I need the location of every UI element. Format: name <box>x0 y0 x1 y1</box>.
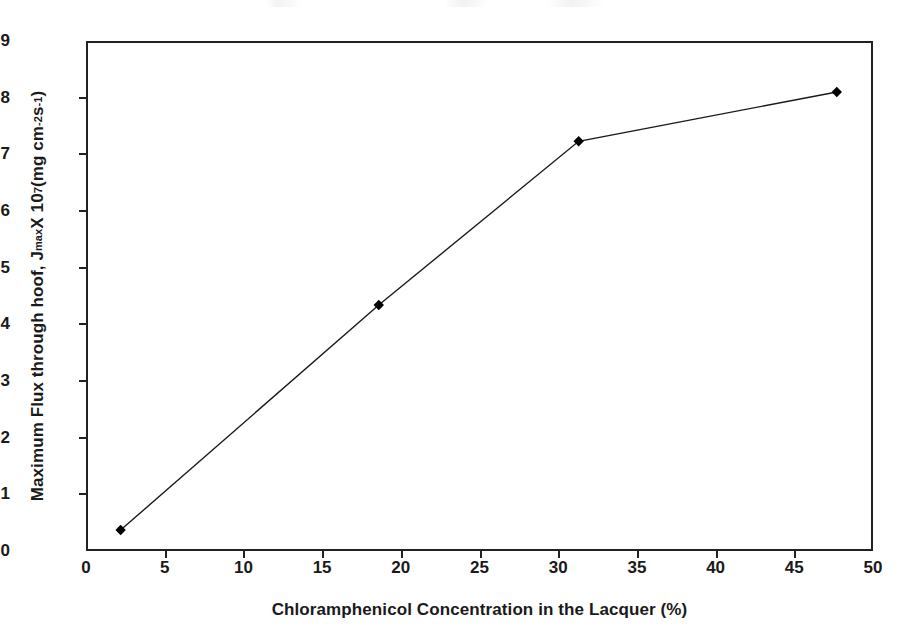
y-tick-mark <box>79 153 86 155</box>
y-tick-mark <box>79 323 86 325</box>
x-tick-mark <box>243 551 245 558</box>
y-tick-mark <box>79 493 86 495</box>
y-tick-label: 8 <box>0 88 10 108</box>
y-axis-title-sup-minus1: -1 <box>32 97 44 107</box>
scan-artifact-top <box>150 0 790 7</box>
x-tick-mark <box>480 551 482 558</box>
x-tick-label: 45 <box>771 558 817 578</box>
x-tick-label: 15 <box>299 558 345 578</box>
x-tick-label: 0 <box>63 558 109 578</box>
x-tick-label: 40 <box>693 558 739 578</box>
x-tick-mark <box>637 551 639 558</box>
y-tick-label: 1 <box>0 484 10 504</box>
x-tick-label: 20 <box>378 558 424 578</box>
y-tick-label: 0 <box>0 541 10 561</box>
y-axis-title-mid3: s <box>28 106 48 116</box>
x-tick-mark <box>716 551 718 558</box>
series-line <box>121 92 837 530</box>
x-tick-label: 35 <box>614 558 660 578</box>
y-axis-title-sub-max: max <box>32 229 44 251</box>
y-tick-label: 4 <box>0 314 10 334</box>
y-tick-label: 7 <box>0 144 10 164</box>
x-tick-label: 5 <box>142 558 188 578</box>
y-axis-title-lead: Maximum Flux through hoof, J <box>28 251 48 501</box>
x-tick-mark <box>794 551 796 558</box>
y-axis-title-mid2: (mg cm <box>28 126 48 187</box>
x-tick-label: 30 <box>535 558 581 578</box>
y-tick-mark <box>79 267 86 269</box>
y-tick-mark <box>79 97 86 99</box>
x-tick-mark <box>322 551 324 558</box>
x-tick-label: 10 <box>220 558 266 578</box>
x-tick-label: 50 <box>850 558 896 578</box>
y-axis-title-sup-7: 7 <box>32 187 44 193</box>
x-tick-mark <box>401 551 403 558</box>
y-axis-title-tail: ) <box>28 91 48 97</box>
y-tick-label: 5 <box>0 258 10 278</box>
y-tick-label: 6 <box>0 201 10 221</box>
x-axis-title: Chloramphenicol Concentration in the Lac… <box>86 600 873 620</box>
y-tick-label: 2 <box>0 428 10 448</box>
y-tick-mark <box>79 210 86 212</box>
y-tick-mark <box>79 380 86 382</box>
y-tick-label: 3 <box>0 371 10 391</box>
x-tick-mark <box>558 551 560 558</box>
y-tick-mark <box>79 437 86 439</box>
y-tick-label: 9 <box>0 31 10 51</box>
chart-figure: Maximum Flux through hoof, Jmax X 107 (m… <box>0 0 913 642</box>
x-tick-label: 25 <box>457 558 503 578</box>
x-tick-mark <box>165 551 167 558</box>
series-markers <box>115 87 842 535</box>
y-axis-title-sup-minus2: -2 <box>32 116 44 126</box>
y-axis-title: Maximum Flux through hoof, Jmax X 107 (m… <box>18 41 58 551</box>
data-point-marker <box>832 87 842 97</box>
y-axis-title-mid: X 10 <box>28 193 48 228</box>
data-series-layer <box>86 41 873 551</box>
